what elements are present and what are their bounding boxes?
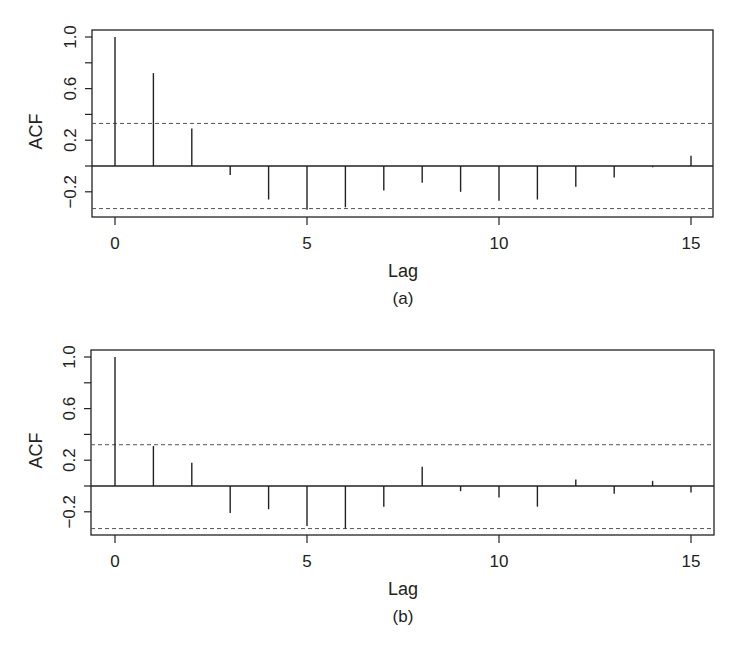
acf-panel-a: −0.20.20.61.0051015ACFLag(a) — [26, 25, 713, 308]
y-tick-label: 0.6 — [61, 77, 80, 101]
x-tick-label: 15 — [682, 234, 701, 253]
acf-panel-b: −0.20.20.61.0051015ACFLag(b) — [26, 345, 714, 626]
plot-frame — [91, 350, 714, 535]
x-tick-label: 10 — [490, 234, 509, 253]
x-tick-label: 0 — [110, 552, 119, 571]
y-tick-label: 1.0 — [61, 25, 80, 49]
y-tick-label: −0.2 — [60, 495, 79, 529]
panel-label: (b) — [393, 607, 414, 626]
y-tick-label: 1.0 — [60, 345, 79, 369]
x-tick-label: 5 — [302, 234, 311, 253]
x-tick-label: 10 — [490, 552, 509, 571]
y-axis-label: ACF — [26, 432, 46, 468]
x-axis-label: Lag — [388, 579, 418, 599]
y-tick-label: 0.2 — [61, 128, 80, 152]
y-tick-label: 0.6 — [60, 397, 79, 421]
y-tick-label: −0.2 — [61, 175, 80, 209]
acf-figure: −0.20.20.61.0051015ACFLag(a) −0.20.20.61… — [0, 0, 736, 665]
x-axis-label: Lag — [388, 261, 418, 281]
x-tick-label: 5 — [302, 552, 311, 571]
y-axis-label: ACF — [26, 113, 46, 149]
y-tick-label: 0.2 — [60, 448, 79, 472]
panel-label: (a) — [393, 289, 414, 308]
x-tick-label: 0 — [110, 234, 119, 253]
x-tick-label: 15 — [682, 552, 701, 571]
